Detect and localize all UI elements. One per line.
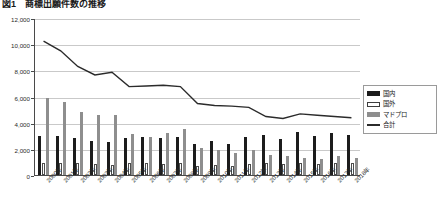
y-axis-tick-label: 12,000 bbox=[11, 16, 30, 23]
y-axis-tick-mark bbox=[31, 45, 34, 46]
chart-root: 図1 商標出願件数の推移 02,0004,0006,0008,00010,000… bbox=[0, 0, 440, 214]
y-axis-tick-label: 8,000 bbox=[15, 68, 30, 75]
total-line bbox=[44, 41, 352, 118]
legend-item-kokugai[interactable]: 国外 bbox=[367, 99, 434, 109]
legend-label-kokugai: 国外 bbox=[383, 100, 395, 108]
y-axis-tick-mark bbox=[31, 71, 34, 72]
y-axis-tick-label: 10,000 bbox=[11, 42, 30, 49]
x-axis: 2000年2001年2002年2003年2004年2005年2006年2007年… bbox=[34, 178, 360, 214]
legend-label-goukei: 合計 bbox=[383, 121, 395, 129]
y-axis-tick-label: 2,000 bbox=[15, 146, 30, 153]
legend-label-madopro: マドプロ bbox=[383, 111, 407, 119]
y-axis-tick-mark bbox=[31, 150, 34, 151]
legend-item-kokunai[interactable]: 国内 bbox=[367, 89, 434, 99]
legend-item-madopro[interactable]: マドプロ bbox=[367, 110, 434, 120]
y-axis-tick-mark bbox=[31, 176, 34, 177]
y-axis-tick-mark bbox=[31, 124, 34, 125]
legend-swatch-kokunai bbox=[367, 91, 380, 96]
legend-item-goukei[interactable]: 合計 bbox=[367, 120, 434, 130]
total-line-series bbox=[35, 19, 360, 175]
y-axis-tick-label: 0 bbox=[27, 173, 30, 180]
legend-label-kokunai: 国内 bbox=[383, 90, 395, 98]
y-axis-tick-label: 6,000 bbox=[15, 94, 30, 101]
legend-swatch-madopro bbox=[367, 112, 380, 117]
legend-swatch-goukei bbox=[367, 124, 380, 126]
y-axis-tick-mark bbox=[31, 98, 34, 99]
chart-title: 図1 商標出願件数の推移 bbox=[2, 0, 106, 8]
y-axis-tick-mark bbox=[31, 19, 34, 20]
y-axis-tick-label: 4,000 bbox=[15, 120, 30, 127]
chart-legend: 国内 国外 マドプロ 合計 bbox=[363, 85, 437, 134]
plot-area bbox=[34, 19, 360, 176]
legend-swatch-kokugai bbox=[367, 102, 380, 107]
